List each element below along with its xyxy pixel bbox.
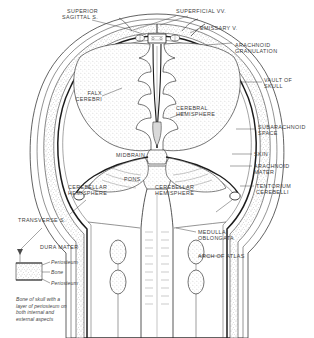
superior-sagittal-sinus — [148, 34, 166, 43]
label-falx-cerebri: FALX CEREBRI — [56, 90, 102, 103]
label-cerebral-hemisphere: CEREBRAL HEMISPHERE — [176, 105, 215, 118]
label-emissary-vein: EMISSARY V. — [200, 25, 238, 31]
inset-caption: Bone of skull with a layer of periosteum… — [16, 296, 67, 322]
label-tentorium-cerebelli: TENTORIUM CEREBELLI — [256, 183, 291, 196]
label-vault-of-skull: VAULT OF SKULL — [264, 77, 292, 90]
label-superficial-veins: SUPERFICIAL VV. — [176, 8, 226, 14]
label-medulla-oblongata: MEDULLA OBLONGATA — [198, 229, 234, 242]
label-arch-of-atlas: ARCH OF ATLAS — [198, 253, 245, 259]
label-superior-sagittal-sinus: SUPERIOR SAGITTAL S. — [36, 8, 98, 21]
midbrain — [147, 150, 167, 164]
label-cerebellar-hemisphere-right: CEREBELLAR HEMISPHERE — [155, 184, 194, 197]
bone-periosteum-inset — [16, 262, 50, 283]
label-dura-mater: DURA MATER — [40, 244, 78, 250]
label-periosteum-inner: Periosteum — [51, 280, 78, 286]
label-midbrain: MIDBRAIN — [116, 152, 145, 158]
label-bone: Bone — [51, 269, 63, 275]
falx-cerebri — [153, 44, 162, 148]
label-subarachnoid-space: SUBARACHNOID SPACE — [258, 124, 306, 137]
label-pons: PONS — [124, 176, 141, 182]
label-periosteum-outer: Periosteum — [51, 259, 78, 265]
label-arachnoid-granulation: ARACHNOID GRANULATION — [235, 42, 277, 55]
label-skin: SKIN — [254, 151, 268, 157]
label-transverse-sinus: TRANSVERSE S. — [18, 217, 66, 223]
label-cerebellar-hemisphere-left: CEREBELLAR HEMISPHERE — [68, 184, 107, 197]
arrow-head-inset — [17, 249, 23, 255]
medulla-oblongata — [141, 189, 173, 338]
label-arachnoid-mater: ARACHNOID MATER — [254, 163, 290, 176]
